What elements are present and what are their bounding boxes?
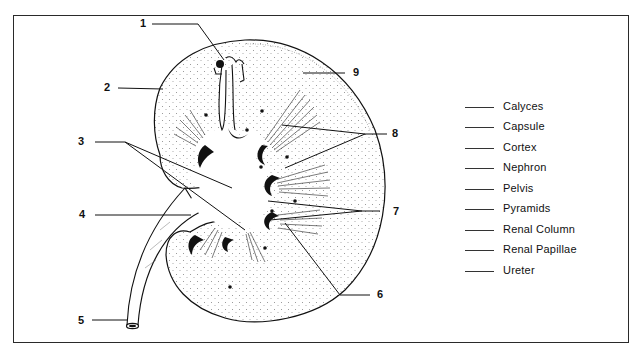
legend-word-bank: Calyces Capsule Cortex Nephron Pelvis Py… bbox=[465, 91, 577, 276]
callout-3: 3 bbox=[78, 136, 84, 147]
answer-blank[interactable] bbox=[465, 209, 494, 210]
legend-label: Capsule bbox=[503, 120, 545, 132]
callout-8: 8 bbox=[392, 128, 398, 139]
callout-7: 7 bbox=[393, 206, 399, 217]
callout-9: 9 bbox=[353, 67, 359, 78]
answer-blank[interactable] bbox=[465, 271, 494, 272]
callout-1: 1 bbox=[140, 18, 146, 29]
legend-label: Nephron bbox=[503, 161, 547, 173]
answer-blank[interactable] bbox=[465, 148, 494, 149]
legend-label: Pyramids bbox=[503, 202, 550, 214]
legend-item: Renal Papillae bbox=[465, 235, 577, 256]
answer-blank[interactable] bbox=[465, 127, 494, 128]
legend-label: Cortex bbox=[503, 141, 537, 153]
callout-5: 5 bbox=[78, 315, 84, 326]
callout-2: 2 bbox=[104, 82, 110, 93]
legend-item: Cortex bbox=[465, 132, 577, 153]
legend-label: Renal Column bbox=[503, 223, 575, 235]
answer-blank[interactable] bbox=[465, 189, 494, 190]
legend-label: Renal Papillae bbox=[503, 243, 577, 255]
legend-item: Calyces bbox=[465, 91, 577, 112]
legend-item: Nephron bbox=[465, 153, 577, 174]
answer-blank[interactable] bbox=[465, 250, 494, 251]
callout-6: 6 bbox=[377, 289, 383, 300]
legend-item: Ureter bbox=[465, 255, 577, 276]
answer-blank[interactable] bbox=[465, 107, 494, 108]
legend-item: Renal Column bbox=[465, 214, 577, 235]
legend-item: Pyramids bbox=[465, 194, 577, 215]
answer-blank[interactable] bbox=[465, 230, 494, 231]
legend-label: Calyces bbox=[503, 100, 544, 112]
renal-pelvis bbox=[188, 125, 272, 232]
legend-item: Capsule bbox=[465, 112, 577, 133]
legend-label: Pelvis bbox=[503, 182, 534, 194]
legend-item: Pelvis bbox=[465, 173, 577, 194]
answer-blank[interactable] bbox=[465, 168, 494, 169]
legend-label: Ureter bbox=[503, 264, 535, 276]
callout-4: 4 bbox=[79, 209, 85, 220]
